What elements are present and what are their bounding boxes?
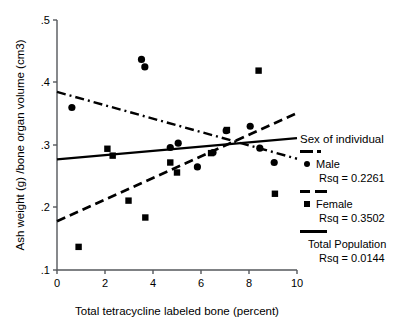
x-tick-label: 6 bbox=[198, 277, 204, 289]
square-marker-icon bbox=[304, 201, 310, 207]
legend-entry-female: Female bbox=[304, 197, 415, 211]
legend-rsq-male: Rsq = 0.2261 bbox=[319, 171, 415, 186]
legend-swatch-female bbox=[300, 186, 415, 197]
female-regression-line bbox=[57, 113, 297, 221]
female-point bbox=[125, 197, 131, 203]
male-point bbox=[141, 63, 148, 70]
legend-title: Sex of individual bbox=[300, 133, 415, 146]
legend-label-male: Male bbox=[316, 158, 340, 170]
solid-line-icon bbox=[300, 230, 327, 233]
male-point bbox=[68, 104, 75, 111]
female-point bbox=[75, 244, 81, 250]
legend-rsq-female: Rsq = 0.3502 bbox=[319, 211, 415, 226]
y-tick-label: .4 bbox=[41, 76, 50, 88]
y-tick-label: .3 bbox=[41, 139, 50, 151]
female-point bbox=[174, 169, 180, 175]
male-point bbox=[138, 56, 145, 63]
x-tick-label: 8 bbox=[246, 277, 252, 289]
female-point bbox=[224, 127, 230, 133]
y-tick-label: .2 bbox=[41, 201, 50, 213]
female-point bbox=[104, 146, 110, 152]
legend-swatch-total bbox=[300, 226, 415, 237]
legend: Sex of individual Male Rsq = 0.2261 Fema… bbox=[300, 133, 415, 266]
scatter-plot-figure: .5 .4 .3 .2 .1 0 2 4 6 8 10 Total tetrac… bbox=[0, 0, 415, 325]
male-point bbox=[194, 163, 201, 170]
legend-label-total: Total Population bbox=[308, 237, 415, 251]
circle-marker-icon bbox=[304, 161, 310, 167]
x-axis-tick-labels: 0 2 4 6 8 10 bbox=[54, 277, 303, 289]
female-point bbox=[167, 159, 173, 165]
female-point bbox=[109, 152, 115, 158]
male-point bbox=[175, 140, 182, 147]
y-tick-label: .1 bbox=[41, 264, 50, 276]
y-axis-tick-labels: .5 .4 .3 .2 .1 bbox=[41, 14, 50, 276]
x-tick-label: 2 bbox=[102, 277, 108, 289]
y-axis-title: Ash weight (g) /bone organ volume (cm3) bbox=[14, 39, 26, 250]
y-tick-label: .5 bbox=[41, 14, 50, 26]
x-axis-title: Total tetracycline labeled bone (percent… bbox=[75, 305, 279, 317]
female-data-points bbox=[75, 67, 278, 250]
female-point bbox=[142, 214, 148, 220]
male-data-points bbox=[68, 56, 278, 171]
male-point bbox=[167, 144, 174, 151]
dash-dot-line-icon bbox=[300, 150, 327, 153]
legend-label-female: Female bbox=[316, 198, 353, 210]
male-point bbox=[256, 145, 263, 152]
male-point bbox=[247, 123, 254, 130]
female-point bbox=[272, 191, 278, 197]
male-point bbox=[271, 159, 278, 166]
x-tick-label: 10 bbox=[291, 277, 303, 289]
dashed-line-icon bbox=[300, 190, 327, 193]
legend-entry-male: Male bbox=[304, 157, 415, 171]
x-tick-label: 4 bbox=[150, 277, 156, 289]
legend-swatch-male bbox=[300, 146, 415, 157]
legend-rsq-total: Rsq = 0.0144 bbox=[319, 251, 415, 266]
x-tick-label: 0 bbox=[54, 277, 60, 289]
female-point bbox=[255, 67, 261, 73]
female-point bbox=[208, 150, 214, 156]
